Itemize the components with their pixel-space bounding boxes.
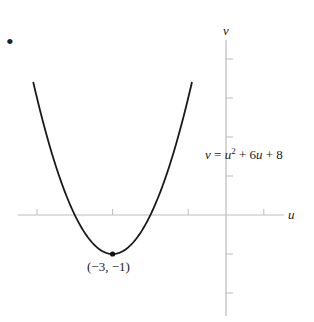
eq-equals: =: [211, 147, 225, 162]
problem-marker: •: [6, 31, 14, 53]
v-axis-ticks: [226, 59, 233, 293]
vertex-label: (−3, −1): [87, 259, 130, 275]
v-axis-label: v: [223, 23, 229, 39]
eq-rest1: + 6: [236, 147, 256, 162]
parabola-curve: [33, 82, 192, 254]
eq-rest2: + 8: [262, 147, 282, 162]
vertex-point: [110, 251, 115, 256]
u-axis-label: u: [288, 207, 295, 223]
equation-label: v = u2 + 6u + 8: [205, 146, 283, 163]
